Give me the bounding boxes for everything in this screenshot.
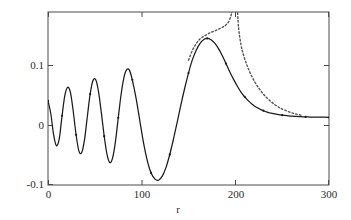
x-axis-title: r (163, 203, 193, 215)
x-tick-label-0: 0 (34, 189, 63, 200)
x-tick-label-3: 300 (314, 189, 344, 200)
x-tick-label-2: 200 (221, 189, 251, 200)
plot-canvas (0, 0, 351, 220)
y-tick-label-0: 0.1 (14, 60, 44, 71)
chart-figure: 0.1 0 -0.1 0 100 200 300 r (0, 0, 351, 220)
y-tick-label-1: 0 (14, 120, 44, 131)
x-tick-label-1: 100 (127, 189, 157, 200)
